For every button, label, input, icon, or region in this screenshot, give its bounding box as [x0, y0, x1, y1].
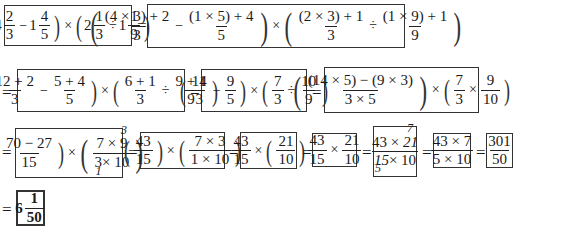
step-8-expression: 4315 × 2110: [312, 133, 357, 167]
cancelled-digit: 155: [374, 152, 389, 168]
equals-sign: =: [476, 144, 486, 161]
cancelled-digit: 217: [403, 134, 418, 150]
step-7-expression: 4315 × ( 2110 ): [240, 132, 297, 169]
step-6-expression: ( 4315 ) × ( 7 × 31 × 10 ): [140, 132, 225, 169]
final-answer: 6 150: [16, 190, 45, 226]
mixed-number: 1 45: [29, 8, 52, 44]
equals-sign: =: [2, 201, 12, 218]
step-3-expression: ( 143 − 95 ) × ( 73 ÷ 109 ): [201, 69, 307, 112]
cancel-replacement: 1: [96, 165, 102, 179]
step-9-expression: 43 × 217 155× 10: [373, 126, 417, 177]
step-5-expression: ( 70 − 2715 ) × ( 7 × 93 31× 10 ): [15, 128, 123, 178]
step-11-expression: 30150: [486, 133, 513, 168]
cancel-replacement: 5: [375, 162, 381, 176]
step-10-expression: 43 × 75 × 10: [433, 133, 471, 168]
step-4-expression: ( (14 × 5) − (9 × 3)3 × 5 ) × ( 73 × 910…: [324, 67, 479, 113]
step-2-expression: ( 12 + 23 − 5 + 45 ) × ( 6 + 13 ÷ 9 + 19…: [17, 69, 185, 112]
step-1-expression: ( (4 × 3) + 23 − (1 × 5) + 45 ) × ( (2 ×…: [147, 4, 405, 48]
cancel-replacement: 7: [407, 122, 413, 136]
mixed-number: 4 23: [0, 8, 17, 44]
cancelled-digit: 31: [95, 154, 103, 170]
